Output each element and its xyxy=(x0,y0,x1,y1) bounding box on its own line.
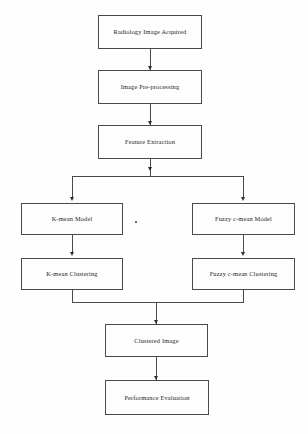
arrowhead-icon-split-center xyxy=(148,167,152,171)
node-label: K-mean Model xyxy=(52,215,93,222)
arrowhead-icon-fuzzy-cmean-clustering xyxy=(241,252,245,256)
node-clustered-image[interactable]: Clustered Image xyxy=(105,324,208,357)
node-radiology-image-acquired[interactable]: Radiology Image Acquired xyxy=(98,15,202,49)
node-kmean-clustering[interactable]: K-mean Clustering xyxy=(21,258,123,290)
scan-artifact-speck xyxy=(135,221,137,223)
node-label: Fuzzy c-mean Clustering xyxy=(210,270,278,277)
node-image-preprocessing[interactable]: Image Pre-processing xyxy=(98,70,202,104)
node-label: Radiology Image Acquired xyxy=(114,28,187,35)
node-kmean-model[interactable]: K-mean Model xyxy=(21,203,123,235)
connector-split-bar xyxy=(72,176,244,177)
node-label: Image Pre-processing xyxy=(121,83,180,90)
node-fuzzy-cmean-clustering[interactable]: Fuzzy c-mean Clustering xyxy=(192,258,295,290)
connector-split-left-drop xyxy=(72,176,73,199)
node-label: Clustered Image xyxy=(134,337,178,344)
node-label: Fuzzy c-mean Model xyxy=(215,215,272,222)
arrowhead-icon-kmean-clustering xyxy=(70,252,74,256)
node-fuzzy-cmean-model[interactable]: Fuzzy c-mean Model xyxy=(192,203,295,235)
node-label: K-mean Clustering xyxy=(46,270,97,277)
node-label: Feature Extraction xyxy=(125,138,175,145)
node-feature-extraction[interactable]: Feature Extraction xyxy=(98,125,202,159)
connector-split-right-drop xyxy=(243,176,244,199)
flowchart-canvas: Radiology Image Acquired Image Pre-proce… xyxy=(0,0,308,434)
node-label: Performance Evaluation xyxy=(124,394,189,401)
node-performance-evaluation[interactable]: Performance Evaluation xyxy=(105,380,209,415)
connector-merge-bar xyxy=(72,302,244,303)
arrowhead-icon-fuzzy-cmean-model xyxy=(241,197,245,201)
arrowhead-icon-kmean-model xyxy=(70,197,74,201)
